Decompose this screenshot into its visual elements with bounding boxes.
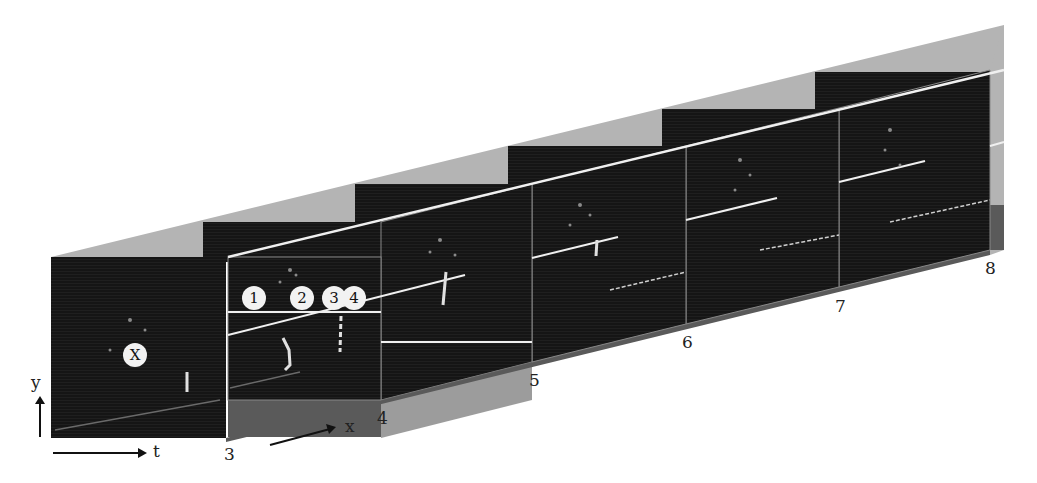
marker-point-1: 1 [242, 286, 266, 310]
frame-label-8: 8 [985, 258, 996, 278]
frame-label-4: 4 [377, 408, 388, 428]
space-time-volume-figure: y t x 3 4 5 6 7 8 X 1 2 3 4 [0, 0, 1037, 483]
t-axis-arrow [53, 448, 147, 458]
frame-label-7: 7 [835, 296, 846, 316]
frame-label-5: 5 [529, 370, 540, 390]
marker-point-2: 2 [290, 286, 314, 310]
marker-x: X [123, 343, 147, 367]
y-axis-arrow [35, 396, 45, 437]
x-axis-label: x [345, 416, 355, 436]
volume-diagram [0, 0, 1037, 483]
t-axis-label: t [153, 441, 160, 461]
frame-label-6: 6 [682, 332, 693, 352]
marker-point-4: 4 [342, 286, 366, 310]
frame-8 [839, 70, 990, 287]
frame-5 [381, 184, 532, 400]
frame-label-3: 3 [224, 444, 235, 464]
y-axis-label: y [31, 372, 41, 392]
